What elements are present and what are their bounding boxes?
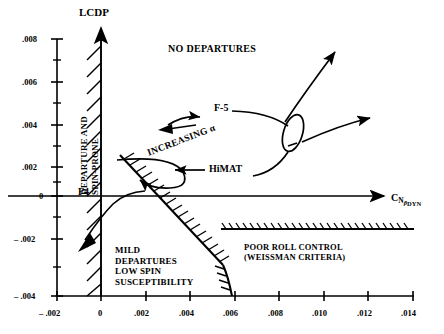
x-tick-label-0004: .004 [179,308,194,318]
lower-boundary-segment [215,265,232,296]
x-axis-title-cnbdyn: CNβDYN [391,192,421,207]
figure-canvas: .008 .006 .004 .002 0 – .002 – .004 – .0… [0,0,444,334]
himat-lower-connector [253,152,288,176]
x-tick-label-0010: .010 [312,308,327,318]
y-tick-label-neg0004: – .004 [14,291,35,301]
region-label-poor-roll-control: POOR ROLL CONTROL (WEISSMAN CRITERIA) [244,242,345,262]
x-tick-label-0008: .008 [268,308,283,318]
x-tick-label-0014: .014 [401,308,416,318]
region-label-mild-departures: MILD DEPARTURES LOW SPIN SUSCEPTIBILITY [115,245,193,287]
f4-trajectory-curve [78,191,145,252]
x-tick-label-0002: .002 [134,308,149,318]
y-tick-label-0008: .008 [22,34,37,44]
x-tick-label-0012: .012 [357,308,372,318]
x-axis-title-sub-dyn: DYN [407,200,421,207]
aircraft-locus-loop [278,112,307,154]
y-tick-label-0006: .006 [22,77,37,87]
y-tick-label-0: 0 [39,191,43,201]
x-axis-baseline [57,291,414,301]
y-tick-spine [51,39,63,296]
lower-divergence-arrow [302,118,370,142]
x-tick-label-0006: .006 [223,308,238,318]
annotation-f4: F4 [78,186,89,198]
x-tick-label-neg0002: – .002 [39,308,60,318]
poor-roll-boundary [221,223,414,229]
annotation-f5: F-5 [214,102,228,114]
y-axis-title-lcdp: LCDP [79,6,109,18]
f5-connector-curve [232,111,288,126]
y-tick-label-0002: .002 [22,162,37,172]
upper-divergence-arrow [285,52,335,122]
x-tick-label-0: 0 [98,308,102,318]
region-label-no-departures: NO DEPARTURES [168,43,256,55]
region-label-departure-spin-prone: DEPARTURE AND SPIN-PRONE [79,116,100,195]
y-tick-label-0004: .004 [22,120,37,130]
y-tick-label-neg0002: – .002 [14,234,35,244]
annotation-himat: HiMAT [209,163,242,175]
